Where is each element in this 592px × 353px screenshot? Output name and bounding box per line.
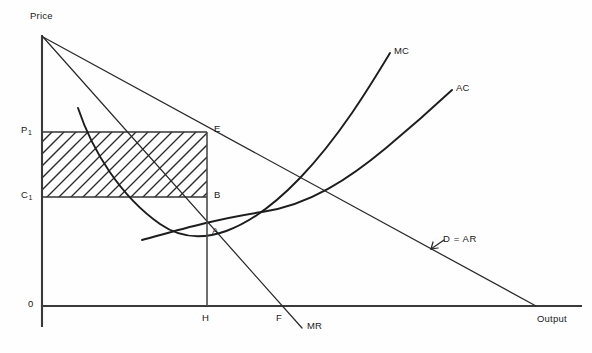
point-label-b: B	[214, 189, 221, 200]
y-axis-label: Price	[30, 10, 53, 21]
point-label-f: F	[276, 312, 282, 323]
curve-label-d-ar: D = AR	[443, 233, 477, 244]
p1-subscript: 1	[28, 129, 32, 136]
marginal-revenue-curve	[43, 37, 302, 328]
marginal-cost-curve	[78, 53, 390, 236]
point-label-e: E	[214, 123, 221, 134]
x-axis-label: Output	[537, 313, 567, 324]
economics-diagram-svg	[0, 0, 592, 353]
c1-base: C	[21, 189, 28, 200]
average-cost-curve	[142, 90, 452, 240]
curve-label-mc: MC	[394, 45, 409, 56]
demand-average-revenue-curve	[43, 37, 536, 306]
supernormal-profit-hatching	[0, 110, 290, 220]
point-label-h: H	[202, 312, 209, 323]
curve-label-ac: AC	[456, 82, 470, 93]
price-level-p1-label: P1	[21, 124, 32, 135]
c1-subscript: 1	[29, 194, 33, 201]
diagram-canvas: Price Output 0 P1 C1 E B A H F MC AC MR …	[0, 0, 592, 353]
p1-base: P	[21, 124, 28, 135]
point-label-a: A	[212, 225, 219, 236]
cost-level-c1-label: C1	[21, 189, 32, 200]
origin-label: 0	[28, 298, 33, 309]
curve-label-mr: MR	[307, 320, 322, 331]
